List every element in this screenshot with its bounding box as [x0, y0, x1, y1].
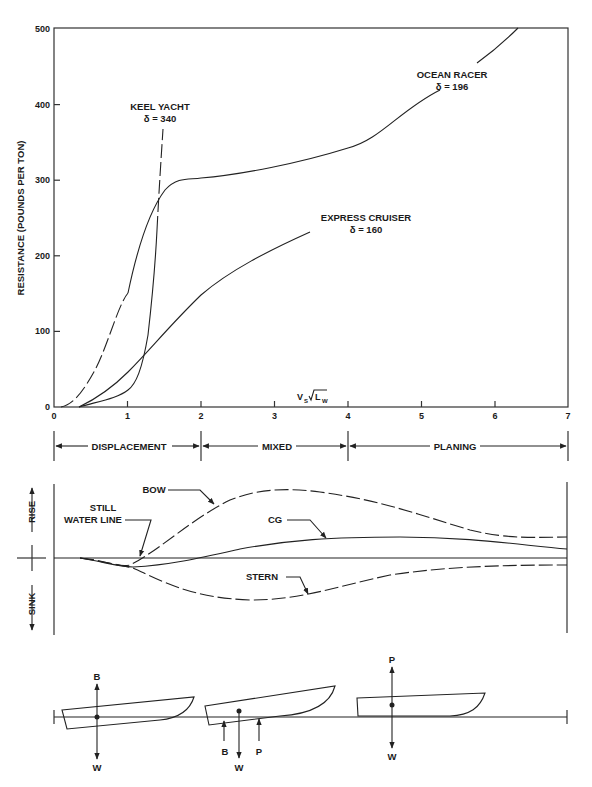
y-tick-500: 500	[35, 24, 50, 34]
x-label-v: V	[297, 392, 303, 402]
keel-yacht-label: KEEL YACHT	[130, 101, 190, 112]
sink-label: SINK	[26, 593, 37, 616]
water-line-label: WATER LINE	[64, 514, 122, 525]
regime-mixed: MIXED	[262, 441, 292, 452]
x-label-s: S	[304, 398, 308, 404]
plot-frame	[54, 28, 568, 407]
force-b-1: B	[94, 671, 101, 682]
bow-label: BOW	[142, 484, 165, 495]
keel-yacht-delta: δ = 340	[144, 113, 176, 124]
x-tick-5: 5	[419, 411, 424, 421]
bow-curve	[80, 490, 567, 566]
force-p-2: P	[256, 746, 263, 757]
keel-yacht-curve-dashed	[157, 129, 163, 230]
x-label-l: L	[315, 392, 321, 402]
ocean-racer-label: OCEAN RACER	[417, 69, 488, 80]
force-w-2: W	[235, 762, 244, 773]
trim-chart: RISE SINK BOW CG STERN STILL WATER LINE	[17, 482, 567, 635]
y-tick-300: 300	[35, 175, 50, 185]
cg-curve	[80, 537, 567, 567]
y-tick-0: 0	[45, 402, 50, 412]
cg-label: CG	[268, 514, 282, 525]
y-tick-200: 200	[35, 251, 50, 261]
regime-displacement: DISPLACEMENT	[92, 441, 167, 452]
force-w-1: W	[93, 762, 102, 773]
x-axis-label: V S L W	[297, 390, 328, 404]
still-label: STILL	[90, 502, 117, 513]
force-w-3: W	[388, 751, 397, 762]
force-b-2: B	[222, 746, 229, 757]
x-tick-2: 2	[198, 411, 203, 421]
x-tick-1: 1	[125, 411, 130, 421]
stern-label: STERN	[246, 571, 278, 582]
ocean-racer-curve	[61, 293, 128, 407]
ocean-racer-curve-top	[477, 28, 518, 63]
boat-mixed: B W P	[205, 686, 335, 773]
boat-attitude-diagrams: B W B W P P W	[54, 654, 567, 773]
x-axis-ticks: 0 1 2 3 4 5 6 7	[51, 401, 570, 421]
regime-planing: PLANING	[434, 441, 477, 452]
express-cruiser-label: EXPRESS CRUISER	[321, 212, 411, 223]
x-tick-3: 3	[272, 411, 277, 421]
boat-planing: P W	[357, 654, 485, 762]
rise-label: RISE	[26, 501, 37, 523]
force-p-3: P	[389, 654, 396, 665]
x-tick-7: 7	[565, 411, 570, 421]
y-axis-ticks: 0 100 200 300 400 500	[35, 24, 60, 412]
x-label-w: W	[322, 398, 328, 404]
express-cruiser-delta: δ = 160	[350, 224, 382, 235]
y-axis-label: RESISTANCE (POUNDS PER TON)	[15, 141, 26, 296]
y-tick-100: 100	[35, 326, 50, 336]
y-tick-400: 400	[35, 100, 50, 110]
keel-yacht-curve	[79, 230, 157, 407]
speed-regime-band: DISPLACEMENT MIXED PLANING	[54, 431, 568, 461]
x-tick-0: 0	[51, 411, 56, 421]
resistance-and-trim-figure: 0 100 200 300 400 500 0 1 2 3 4 5 6 7 RE…	[0, 0, 592, 787]
x-tick-6: 6	[492, 411, 497, 421]
stern-curve	[80, 558, 567, 600]
ocean-racer-delta: δ = 196	[436, 81, 468, 92]
boat-displacement: B W	[62, 671, 194, 773]
express-cruiser-curve	[79, 232, 310, 407]
x-tick-4: 4	[345, 411, 350, 421]
resistance-chart: 0 100 200 300 400 500 0 1 2 3 4 5 6 7 RE…	[15, 24, 571, 421]
